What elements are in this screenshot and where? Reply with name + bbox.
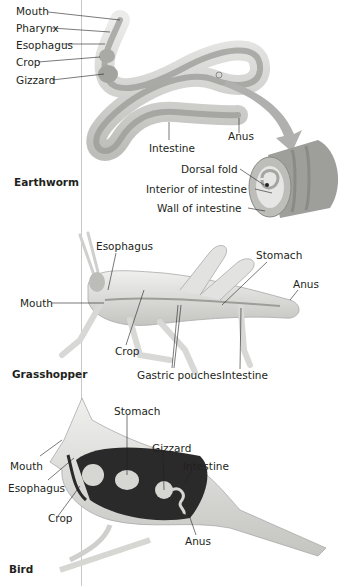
grasshopper-label-esophagus: Esophagus [96,241,153,252]
earthworm-label-esophagus: Esophagus [16,40,73,51]
earthworm-label-gizzard: Gizzard [16,75,55,86]
intestine-cross-section [249,140,338,218]
grasshopper-title: Grasshopper [12,369,87,380]
grasshopper-label-stomach: Stomach [256,250,302,261]
earthworm-label-anus: Anus [228,131,254,142]
inset-label-dorsal-fold: Dorsal fold [181,164,238,175]
bird-label-mouth: Mouth [10,461,43,472]
bird-label-crop: Crop [48,513,73,524]
bird-label-stomach: Stomach [114,406,160,417]
grasshopper-label-gastric-pouches: Gastric pouches [137,370,222,381]
inset-label-wall-of-intestine: Wall of intestine [157,203,242,214]
earthworm-label-pharynx: Pharynx [16,23,59,34]
bird-label-esophagus: Esophagus [8,483,65,494]
grasshopper-label-crop: Crop [115,346,140,357]
earthworm-label-mouth: Mouth [16,6,49,17]
earthworm-label-crop: Crop [16,57,41,68]
grasshopper-label-anus: Anus [293,279,319,290]
grasshopper-label-intestine: Intestine [222,370,268,381]
earthworm-label-intestine: Intestine [149,143,195,154]
bird-title: Bird [9,564,33,575]
bird-label-anus: Anus [185,536,211,547]
bird-label-gizzard: Gizzard [152,443,191,454]
earthworm-title: Earthworm [14,177,79,188]
bird-label-intestine: Intestine [183,461,229,472]
inset-label-interior-of-intestine: Interior of intestine [146,184,247,195]
grasshopper-label-mouth: Mouth [20,298,53,309]
digestive-systems-illustration [0,0,352,586]
